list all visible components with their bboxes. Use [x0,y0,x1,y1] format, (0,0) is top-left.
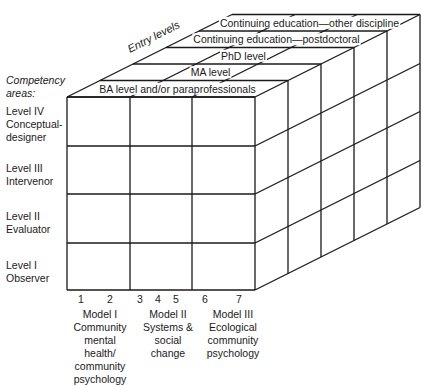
competency-level-label: Level III [6,162,53,175]
model-line: change [133,347,203,360]
model-line: mental [62,334,138,347]
model-line: health/ [62,347,138,360]
column-number: 5 [173,293,179,306]
entry-level-label: Continuing education—other discipline [220,17,399,29]
model-line: Ecological [196,321,270,334]
column-number: 7 [236,293,242,306]
side-face-row-line [255,112,420,195]
entry-level-label: BA level and/or paraprofessionals [99,83,255,95]
model-line: Model III [196,308,270,321]
competency-name: Conceptual- [6,118,63,131]
model-line: Model II [133,308,203,321]
entry-levels-axis-label: Entry levels [125,18,182,55]
side-face-row-line [255,161,420,244]
column-number: 1 [78,293,84,306]
side-face-row-line [255,64,420,147]
entry-level-label: PhD level [221,50,266,62]
model-2-label: Model II Systems & social change [133,308,203,360]
model-line: psychology [196,347,270,360]
competency-level-label: Level IV [6,105,63,118]
competency-level-4: Level IV Conceptual- designer [6,105,63,144]
model-line: social [133,334,203,347]
side-face-row-line [255,208,420,291]
model-line: Model I [62,308,138,321]
column-number: 2 [107,293,113,306]
competency-axis-label-line: areas: [6,87,65,100]
model-1-label: Model I Community mental health/ communi… [62,308,138,386]
competency-name: designer [6,131,63,144]
competency-name: Evaluator [6,223,50,236]
competency-name: Observer [6,272,49,285]
model-line: Community [62,321,138,334]
model-line: community [62,360,138,373]
entry-level-labels: BA level and/or paraprofessionalsMA leve… [98,17,400,95]
model-line: community [196,334,270,347]
competency-axis-label: Competency areas: [6,74,65,100]
competency-level-2: Level II Evaluator [6,210,50,236]
model-line: Systems & [133,321,203,334]
competency-cube-diagram: BA level and/or paraprofessionalsMA leve… [0,0,422,386]
entry-level-label: MA level [191,66,231,78]
column-number: 6 [202,293,208,306]
model-line: psychology [62,373,138,386]
competency-level-1: Level I Observer [6,259,49,285]
competency-level-3: Level III Intervenor [6,162,53,188]
entry-level-label: Continuing education—postdoctoral [193,33,359,45]
competency-level-label: Level I [6,259,49,272]
model-3-label: Model III Ecological community psycholog… [196,308,270,360]
competency-axis-label-line: Competency [6,74,65,87]
column-number: 4 [155,293,161,306]
competency-level-label: Level II [6,210,50,223]
competency-name: Intervenor [6,175,53,188]
column-number: 3 [137,293,143,306]
